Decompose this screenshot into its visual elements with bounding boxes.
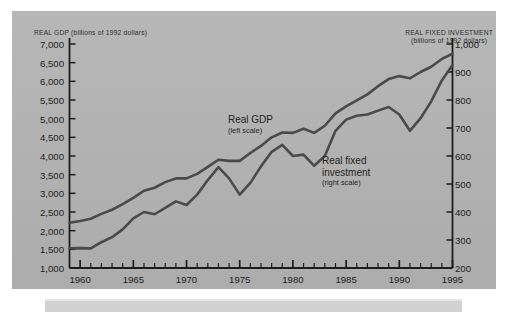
x-tick-label: 1995 [442,274,463,285]
left-tick-label: 6,500 [40,57,64,68]
series-label-real-gdp-name: Real GDP [228,114,273,126]
right-tick-label: 400 [455,207,471,218]
left-tick-label: 2,500 [40,207,64,218]
right-tick-label: 600 [455,151,471,162]
right-tick-label: 300 [455,235,471,246]
x-tick-label: 1990 [389,274,410,285]
left-tick-label: 3,500 [40,169,64,180]
left-tick-label: 6,000 [40,76,64,87]
x-tick-label: 1985 [335,274,356,285]
left-tick-label: 2,000 [40,225,64,236]
x-axis-ticks [80,260,452,268]
right-tick-label: 900 [455,67,471,78]
axis-lines [70,38,453,268]
right-tick-label: 500 [455,179,471,190]
left-tick-label: 4,000 [40,151,64,162]
x-axis-tick-labels: 19601965197019751980198519901995 [0,268,507,288]
left-tick-label: 5,000 [40,113,64,124]
series-label-real-fixed-investment: Real fixed investment (right scale) [322,155,370,187]
left-tick-label: 4,500 [40,132,64,143]
x-tick-label: 1965 [123,274,144,285]
left-tick-label: 3,000 [40,188,64,199]
series-label-investment-line1: Real fixed [322,155,370,167]
right-tick-label: 1,000 [455,39,479,50]
right-tick-label: 800 [455,95,471,106]
figure-container: REAL GDP (billions of 1992 dollars) REAL… [0,0,507,318]
left-tick-label: 1,500 [40,244,64,255]
x-tick-label: 1970 [176,274,197,285]
series-label-investment-line2: investment [322,167,370,179]
x-tick-label: 1975 [229,274,250,285]
left-tick-label: 5,500 [40,95,64,106]
series-label-real-gdp: Real GDP (left scale) [228,114,273,135]
x-tick-label: 1980 [282,274,303,285]
series-label-investment-scale: (right scale) [322,178,370,187]
caption-bar [45,301,462,312]
left-tick-label: 7,000 [40,39,64,50]
series-label-real-gdp-scale: (left scale) [228,126,273,135]
series-lines [70,54,453,249]
x-tick-label: 1960 [69,274,90,285]
right-tick-label: 700 [455,123,471,134]
